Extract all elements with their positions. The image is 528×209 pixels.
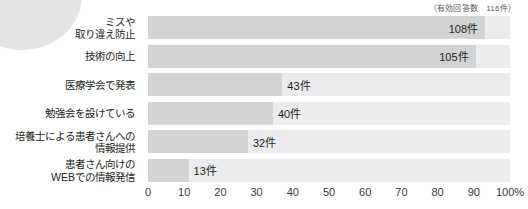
bar-row: 培養士による患者さんへの 情報提供 32件 — [0, 128, 528, 155]
category-label: ミスや 取り違え防止 — [0, 15, 141, 40]
x-axis-tick: 90 — [468, 186, 480, 198]
bar-track: 108件 — [148, 16, 510, 39]
bar-value-label: 43件 — [282, 77, 310, 93]
bar-row: 技術の向上 105件 — [0, 43, 528, 70]
valid-responses-note: （有効回答数 116件） — [429, 2, 516, 13]
bar-fill — [148, 45, 476, 68]
category-label: 勉強会を設けている — [0, 107, 141, 120]
bar-value-label: 108件 — [449, 20, 485, 36]
x-axis-tick: 80 — [431, 186, 443, 198]
bar-track: 105件 — [148, 45, 510, 68]
x-axis-tick: 10 — [178, 186, 190, 198]
bar-fill — [148, 159, 189, 182]
category-label: 技術の向上 — [0, 50, 141, 63]
bar-value-label: 32件 — [248, 134, 276, 150]
bar-track: 40件 — [148, 102, 510, 125]
horizontal-bar-chart: （有効回答数 116件） ミスや 取り違え防止 108件 技術の向上 105件 … — [0, 0, 528, 209]
bar-row: 勉強会を設けている 40件 — [0, 100, 528, 127]
bar-fill — [148, 102, 273, 125]
bar-track: 13件 — [148, 159, 510, 182]
category-label: 培養士による患者さんへの 情報提供 — [0, 129, 141, 154]
bar-rows: ミスや 取り違え防止 108件 技術の向上 105件 医療学会で発表 43件 勉… — [0, 14, 528, 185]
x-axis-tick: 0 — [145, 186, 151, 198]
bar-row: 医療学会で発表 43件 — [0, 71, 528, 98]
category-label: 患者さん向けの WEBでの情報発信 — [0, 158, 141, 183]
x-axis-tick: 100% — [496, 186, 524, 198]
bar-fill — [148, 16, 485, 39]
bar-value-label: 40件 — [273, 105, 301, 121]
bar-fill — [148, 130, 248, 153]
bar-row: 患者さん向けの WEBでの情報発信 13件 — [0, 157, 528, 184]
x-axis-tick: 20 — [214, 186, 226, 198]
bar-track: 32件 — [148, 130, 510, 153]
category-label: 医療学会で発表 — [0, 78, 141, 91]
x-axis-tick: 60 — [359, 186, 371, 198]
x-axis-tick: 70 — [395, 186, 407, 198]
x-axis-tick: 40 — [287, 186, 299, 198]
bar-fill — [148, 73, 282, 96]
x-axis-tick: 50 — [323, 186, 335, 198]
bar-value-label: 13件 — [189, 162, 217, 178]
bar-track: 43件 — [148, 73, 510, 96]
bar-row: ミスや 取り違え防止 108件 — [0, 14, 528, 41]
x-axis: 0 10 20 30 40 50 60 70 80 90 100% — [148, 186, 510, 204]
x-axis-tick: 30 — [250, 186, 262, 198]
bar-value-label: 105件 — [439, 48, 475, 64]
